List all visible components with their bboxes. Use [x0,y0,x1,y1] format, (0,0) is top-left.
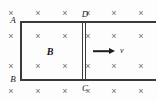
field-cross-icon: × [111,62,116,71]
field-cross-icon: × [138,32,143,41]
velocity-label: v [120,47,124,55]
field-cross-icon: × [138,87,143,96]
field-cross-icon: × [62,32,67,41]
field-cross-icon: × [8,62,13,71]
field-cross-icon: × [111,32,116,41]
field-cross-icon: × [35,62,40,71]
point-label-b: B [10,75,16,84]
point-label-c: C [82,84,88,93]
point-label-a: A [10,16,16,25]
magnetic-field-label: B [47,47,54,57]
field-cross-icon: × [85,62,90,71]
field-cross-icon: × [8,32,13,41]
field-cross-icon: × [111,87,116,96]
conductor-bottom-rail [20,79,156,81]
velocity-arrow-icon [93,47,115,55]
field-cross-icon: × [138,62,143,71]
physics-diagram: ××××××××××××××××××××××××BABCDv [0,0,158,102]
field-cross-icon: × [85,32,90,41]
field-cross-icon: × [35,9,40,18]
field-cross-icon: × [138,9,143,18]
conductor-left-conductor-AB [20,21,22,81]
field-cross-icon: × [62,62,67,71]
point-label-d: D [82,10,89,19]
field-cross-icon: × [8,87,13,96]
sliding-bar-cd[interactable] [82,21,86,81]
field-cross-icon: × [35,87,40,96]
field-cross-icon: × [35,32,40,41]
field-cross-icon: × [62,87,67,96]
conductor-top-rail [20,21,156,23]
field-cross-icon: × [62,9,67,18]
field-cross-icon: × [111,9,116,18]
